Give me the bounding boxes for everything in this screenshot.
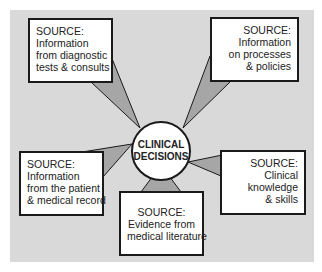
source-label: SOURCE: — [218, 24, 291, 36]
hub-label-line2: DECISIONS — [133, 151, 188, 163]
source-label: SOURCE: — [27, 158, 96, 170]
source-text: from the patient — [27, 182, 96, 194]
source-box-patient-record: SOURCE: Information from the patient & m… — [19, 151, 104, 216]
source-text: Information — [218, 36, 291, 48]
source-text: & skills — [228, 193, 298, 205]
source-label: SOURCE: — [228, 157, 298, 169]
source-label: SOURCE: — [36, 25, 105, 37]
source-text: & policies — [218, 60, 291, 72]
source-text: & medical record — [27, 194, 96, 206]
source-text: Clinical — [228, 169, 298, 181]
source-text: medical literature — [127, 230, 196, 242]
source-box-processes-policies: SOURCE: Information on processes & polic… — [210, 17, 299, 82]
source-text: on processes — [218, 48, 291, 60]
source-text: from diagnostic — [36, 49, 105, 61]
source-box-medical-literature: SOURCE: Evidence from medical literature — [119, 191, 204, 256]
source-text: Information — [27, 170, 96, 182]
source-text: knowledge — [228, 181, 298, 193]
source-text: tests & consults — [36, 61, 105, 73]
source-box-clinical-knowledge: SOURCE: Clinical knowledge & skills — [220, 150, 306, 215]
hub-label-line1: CLINICAL — [138, 139, 185, 151]
source-text: Information — [36, 37, 105, 49]
source-label: SOURCE: — [127, 206, 196, 218]
source-text: Evidence from — [127, 218, 196, 230]
source-box-diagnostic-tests: SOURCE: Information from diagnostic test… — [28, 18, 113, 83]
clinical-decisions-hub: CLINICAL DECISIONS — [131, 121, 191, 181]
